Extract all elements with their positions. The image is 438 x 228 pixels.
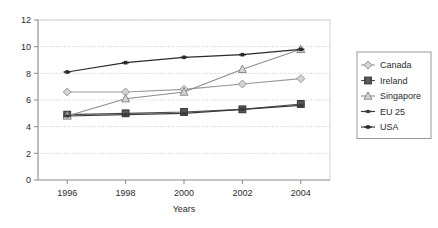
x-tick-label: 2000: [174, 188, 194, 198]
data-point-marker: [297, 75, 305, 83]
legend-label: EU 25: [380, 107, 405, 117]
y-axis-tick-labels: 024681012: [21, 15, 31, 185]
chart-legend: CanadaIrelandSingaporeEU 25USA: [357, 52, 431, 139]
x-tick-label: 1998: [116, 188, 136, 198]
x-tick-label: 2004: [291, 188, 311, 198]
x-tick-label: 1996: [57, 188, 77, 198]
legend-item-canada[interactable]: Canada: [361, 60, 412, 70]
line-chart: 024681012 19961998200020022004 Years Can…: [0, 0, 438, 228]
data-point-marker: [122, 61, 129, 65]
data-series-layer: [63, 45, 305, 119]
legend-label: USA: [380, 122, 399, 132]
y-tick-label: 0: [26, 175, 31, 185]
data-point-marker: [365, 77, 372, 84]
x-axis-title: Years: [173, 204, 196, 214]
data-point-marker: [180, 56, 187, 60]
data-point-marker: [63, 88, 71, 96]
x-tick-label: 2002: [232, 188, 252, 198]
y-tick-label: 6: [26, 95, 31, 105]
y-tick-label: 4: [26, 122, 31, 132]
legend-label: Singapore: [380, 91, 421, 101]
legend-label: Ireland: [380, 76, 408, 86]
y-tick-label: 10: [21, 42, 31, 52]
data-point-marker: [239, 53, 246, 57]
y-tick-label: 8: [26, 69, 31, 79]
y-tick-label: 12: [21, 15, 31, 25]
data-point-marker: [238, 80, 246, 88]
gridlines: [38, 20, 330, 180]
chart-figure: 024681012 19961998200020022004 Years Can…: [0, 0, 438, 228]
legend-item-ireland[interactable]: Ireland: [361, 76, 408, 86]
legend-label: Canada: [380, 60, 412, 70]
y-tick-label: 2: [26, 149, 31, 159]
axis-tick-marks: [34, 20, 301, 184]
x-axis-tick-labels: 19961998200020022004: [57, 188, 311, 198]
